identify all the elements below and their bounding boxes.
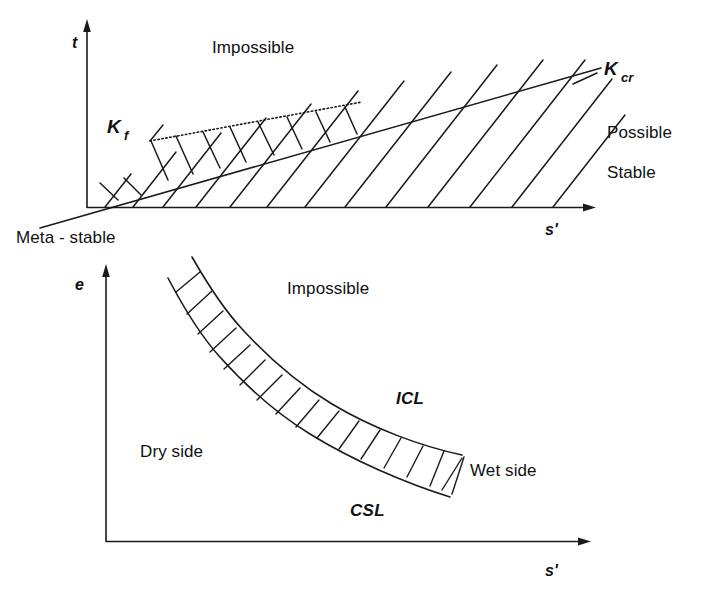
top-stable-label: Stable — [607, 163, 656, 182]
csl-curve — [168, 278, 450, 497]
dry-side-label: Dry side — [140, 442, 203, 461]
bottom-y-axis — [102, 264, 110, 542]
k-f-label: K f — [107, 116, 130, 143]
top-meta-stable-label: Meta - stable — [16, 228, 116, 247]
k-cr-symbol: K — [604, 58, 619, 79]
k-f-symbol: K — [107, 116, 122, 137]
bottom-impossible-label: Impossible — [287, 279, 369, 298]
top-y-axis-label: t — [72, 34, 78, 51]
k-f-subscript: f — [124, 128, 130, 143]
k-f-line — [150, 102, 362, 141]
critical-state-diagram: t s' Impossible Possible Stable Meta - s… — [0, 0, 702, 592]
band-rung-group — [176, 272, 464, 494]
bottom-y-axis-label: e — [75, 276, 84, 293]
top-kf-tick-group — [100, 107, 357, 200]
top-x-axis-label: s' — [545, 221, 559, 238]
top-hatch-group — [105, 60, 625, 207]
bottom-x-axis — [106, 537, 591, 545]
k-cr-label: K cr — [604, 58, 634, 85]
bottom-x-axis-label: s' — [545, 562, 559, 579]
figure-root: t s' Impossible Possible Stable Meta - s… — [0, 0, 702, 592]
top-impossible-label: Impossible — [212, 38, 294, 57]
top-possible-label: Possible — [607, 123, 672, 142]
top-panel: t s' Impossible Possible Stable Meta - s… — [16, 19, 672, 247]
k-cr-subscript: cr — [621, 70, 634, 85]
top-y-axis — [83, 19, 91, 208]
bottom-panel: e s' Impossible Dry side Wet side ICL CS… — [75, 257, 591, 579]
wet-side-label: Wet side — [470, 461, 537, 480]
csl-label: CSL — [350, 501, 385, 520]
icl-label: ICL — [396, 389, 424, 408]
